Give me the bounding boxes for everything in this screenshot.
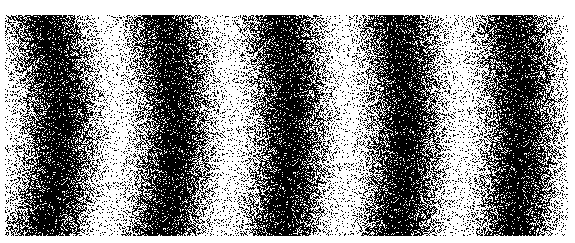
fringe-canvas: [5, 15, 568, 236]
fringe-pattern-image: [5, 15, 568, 236]
